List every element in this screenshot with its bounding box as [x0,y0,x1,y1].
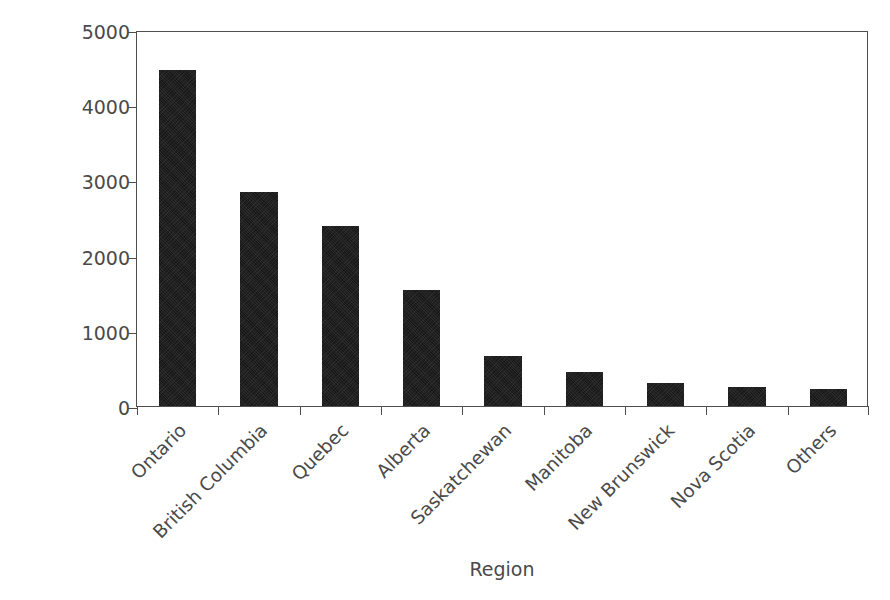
y-tick-label: 1000 [82,323,130,342]
bar-ontario [159,70,196,406]
y-axis-title: Number of Cases [8,0,54,76]
bar-nova-scotia [728,387,765,406]
y-tick-label: 4000 [82,98,130,117]
bar-others [810,389,847,406]
bar-chart-figure: Number of Cases 010002000300040005000 On… [0,0,890,600]
y-tick-label: 5000 [82,23,130,42]
x-axis-category-labels: OntarioBritish ColumbiaQuebecAlbertaSask… [136,407,868,557]
bar-quebec [322,226,359,406]
x-tick-mark [868,406,869,415]
x-axis-title: Region [136,558,868,580]
bar-new-brunswick [647,383,684,406]
plot-area: 010002000300040005000 [136,31,868,407]
bar-british-columbia [240,192,277,406]
y-tick-label: 2000 [82,248,130,267]
y-tick-label: 3000 [82,173,130,192]
bar-saskatchewan [484,356,521,406]
bar-alberta [403,290,440,406]
y-tick-label: 0 [118,399,130,418]
bar-manitoba [566,372,603,406]
y-axis-title-container: Number of Cases [8,30,54,408]
bars-layer [137,32,867,406]
